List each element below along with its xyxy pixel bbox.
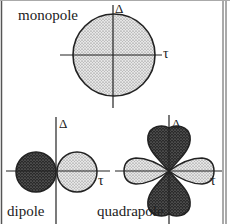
quadrapole-delta-label: Δ bbox=[172, 117, 180, 130]
dipole-positive-lobe bbox=[57, 152, 97, 192]
pole-diagram bbox=[0, 0, 230, 224]
figure-frame: monopole τ Δ dipole τ Δ quadrapole τ Δ bbox=[0, 0, 230, 224]
dipole-label: dipole bbox=[7, 204, 45, 219]
monopole-tau-label: τ bbox=[163, 47, 169, 61]
quadrapole-tau-label: τ bbox=[210, 174, 216, 188]
monopole-delta-label: Δ bbox=[115, 2, 123, 15]
dipole-delta-label: Δ bbox=[59, 117, 67, 130]
dipole-tau-label: τ bbox=[98, 174, 104, 188]
quadrapole-label: quadrapole bbox=[97, 204, 164, 219]
dipole-negative-lobe bbox=[16, 152, 56, 192]
monopole-label: monopole bbox=[18, 8, 78, 23]
